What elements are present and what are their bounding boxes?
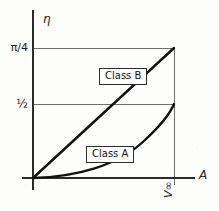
y-axis-label-eta: η xyxy=(43,13,51,25)
curve-class-a xyxy=(33,104,174,178)
y-tick-label-one-half: ½ xyxy=(2,98,28,110)
x-tick-label-v-infinity: V∞ xyxy=(163,181,174,198)
figure-canvas: π/4 ½ η A V∞ Class B Class A xyxy=(0,0,219,211)
chart-plot-area xyxy=(0,0,219,211)
annotation-class-a: Class A xyxy=(86,146,134,163)
y-tick-label-pi-over-4: π/4 xyxy=(2,42,28,53)
annotation-class-b: Class B xyxy=(99,68,147,85)
x-axis-label-a: A xyxy=(199,169,207,181)
